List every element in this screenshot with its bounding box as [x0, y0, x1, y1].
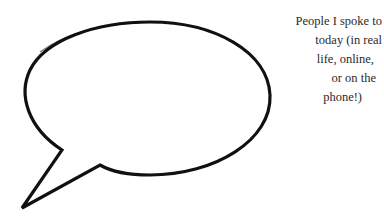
- caption: People I spoke to today (in real life, o…: [278, 12, 382, 107]
- caption-line: People I spoke to: [278, 12, 382, 31]
- speech-bubble-outline: [22, 22, 270, 208]
- caption-line: life, online,: [278, 50, 374, 69]
- canvas: People I spoke to today (in real life, o…: [0, 0, 384, 220]
- caption-line: or on the: [278, 69, 376, 88]
- caption-line: today (in real: [278, 31, 382, 50]
- caption-line: phone!): [278, 88, 362, 107]
